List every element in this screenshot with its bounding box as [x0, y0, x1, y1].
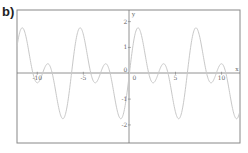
- x-tick-label: -5: [80, 74, 86, 81]
- origin-label: 0: [124, 66, 128, 73]
- x-tick-label: -10: [32, 74, 42, 81]
- plot: -10-5510-2-11200xy: [0, 0, 248, 153]
- y-axis-label: y: [131, 10, 136, 18]
- x-origin-label: 0: [132, 74, 136, 81]
- x-tick-label: 5: [174, 74, 178, 81]
- y-tick-label: 1: [124, 43, 128, 50]
- plot-frame: [17, 10, 240, 143]
- y-tick-label: 2: [124, 18, 128, 25]
- x-tick-label: 10: [218, 74, 226, 81]
- y-tick-label: -1: [122, 95, 128, 102]
- y-tick-label: -2: [122, 121, 128, 128]
